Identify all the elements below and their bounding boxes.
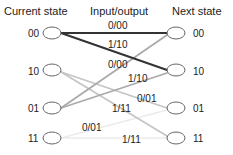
right-state-label: 10	[193, 66, 205, 77]
right-node-01	[167, 102, 185, 114]
edge-11-to-01	[61, 110, 167, 138]
left-node-11	[43, 132, 61, 144]
right-state-label: 11	[193, 133, 204, 144]
right-node-00	[167, 27, 185, 39]
edge-label-01-10: 1/10	[128, 73, 148, 84]
header-input-output: Input/output	[90, 5, 148, 17]
edge-label-00-00: 0/00	[108, 20, 128, 31]
edge-label-00-10: 1/10	[108, 39, 128, 50]
left-node-10	[43, 64, 61, 76]
edge-label-10-01: 0/01	[137, 93, 157, 104]
header-current-state: Current state	[4, 5, 68, 17]
left-state-label: 10	[28, 66, 40, 77]
edge-label-10-11: 1/11	[112, 103, 131, 114]
right-node-10	[167, 64, 185, 76]
left-node-01	[43, 102, 61, 114]
right-state-label: 01	[193, 103, 205, 114]
left-node-00	[43, 27, 61, 39]
trellis-diagram: Current state Input/output Next state 00…	[0, 0, 233, 155]
edge-label-11-01: 0/01	[82, 122, 102, 133]
left-state-label: 11	[28, 133, 39, 144]
left-state-label: 00	[28, 28, 40, 39]
right-state-label: 00	[193, 28, 205, 39]
right-node-11	[167, 132, 185, 144]
edge-label-11-11: 1/11	[122, 134, 141, 145]
header-next-state: Next state	[172, 5, 222, 17]
edge-label-01-00: 0/00	[108, 59, 128, 70]
left-state-label: 01	[28, 103, 40, 114]
